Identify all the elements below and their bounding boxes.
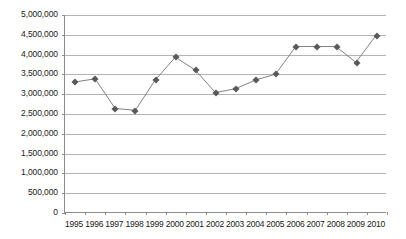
x-axis-tick-label: 2001 [185,219,205,229]
x-axis-tick-mark [347,212,348,215]
x-axis-tick-mark [226,212,227,215]
x-axis-tick-mark [327,212,328,215]
plot-area [64,15,386,213]
x-axis-tick-label: 2000 [165,219,185,229]
x-axis-tick-label: 2005 [265,219,285,229]
x-axis-tick-label: 1997 [104,219,124,229]
x-axis-tick-label: 2002 [205,219,225,229]
y-axis-tick-label: 1,000,000 [21,167,58,177]
x-axis-tick-mark [266,212,267,215]
x-axis-tick-mark [166,212,167,215]
y-axis-tick-label: 3,000,000 [21,88,58,98]
x-axis-tick-label: 2009 [346,219,366,229]
x-axis-tick-mark [387,212,388,215]
x-axis-tick-mark [367,212,368,215]
chart-screenshot: 0500,0001,000,0001,500,0002,000,0002,500… [0,0,406,239]
y-axis-tick-label: 2,000,000 [21,128,58,138]
x-axis-tick-label: 2004 [245,219,265,229]
x-axis-tick-label: 1998 [124,219,144,229]
x-axis-tick-mark [125,212,126,215]
x-axis-tick-label: 2006 [285,219,305,229]
x-axis-tick-label: 1995 [64,219,84,229]
y-axis-tick-label: 500,000 [28,187,58,197]
x-axis-tick-mark [206,212,207,215]
x-axis-tick-mark [307,212,308,215]
y-axis-tick-label: 1,500,000 [21,148,58,158]
y-axis-tick-label: 0 [53,207,58,217]
x-axis-tick-mark [146,212,147,215]
x-axis-tick-mark [286,212,287,215]
series-polyline [75,35,376,110]
x-axis-tick-label: 1999 [145,219,165,229]
x-axis-tick-label: 2010 [366,219,386,229]
x-axis-tick-label: 2007 [306,219,326,229]
x-axis-tick-label: 2003 [225,219,245,229]
x-axis-tick-mark [186,212,187,215]
x-axis-tick-label: 2008 [326,219,346,229]
x-axis-tick-mark [105,212,106,215]
y-axis-tick-label: 5,000,000 [21,9,58,19]
y-axis-tick-label: 4,500,000 [21,29,58,39]
y-axis-tick-label: 4,000,000 [21,49,58,59]
x-axis-tick-label: 1996 [84,219,104,229]
x-axis-tick-mark [65,212,66,215]
y-axis-tick-label: 3,500,000 [21,68,58,78]
x-axis-tick-mark [246,212,247,215]
y-axis-tick-label: 2,500,000 [21,108,58,118]
x-axis-tick-mark [85,212,86,215]
